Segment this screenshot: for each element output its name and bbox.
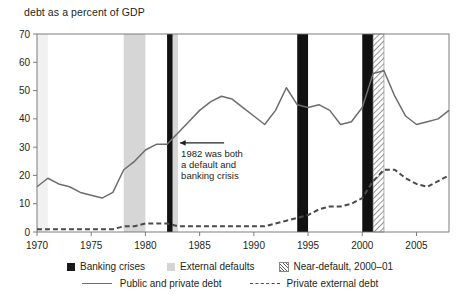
- chart-plot-area: 0102030405060701970197519801985199019952…: [0, 0, 460, 260]
- svg-text:1995: 1995: [297, 240, 320, 251]
- public-private-debt-line-icon: [82, 283, 112, 284]
- svg-text:70: 70: [19, 29, 31, 40]
- svg-text:40: 40: [19, 113, 31, 124]
- legend-label-external-defaults: External defaults: [180, 261, 255, 272]
- svg-text:a default and: a default and: [181, 159, 236, 170]
- svg-text:0: 0: [24, 227, 30, 238]
- svg-text:1985: 1985: [189, 240, 212, 251]
- svg-text:1980: 1980: [134, 240, 157, 251]
- svg-text:1975: 1975: [80, 240, 103, 251]
- legend-row-2: Public and private debt Private external…: [0, 275, 460, 292]
- legend-item-near-default[interactable]: Near-default, 2000–01: [279, 261, 394, 272]
- svg-text:1990: 1990: [243, 240, 266, 251]
- svg-text:banking crisis: banking crisis: [181, 170, 239, 181]
- chart-legend: Banking crises External defaults Near-de…: [0, 258, 460, 292]
- external-defaults-swatch-icon: [167, 263, 175, 271]
- legend-row-1: Banking crises External defaults Near-de…: [0, 258, 460, 275]
- svg-text:2005: 2005: [405, 240, 428, 251]
- legend-label-public-private-debt: Public and private debt: [120, 278, 222, 289]
- legend-item-public-private-debt[interactable]: Public and private debt: [82, 278, 222, 289]
- private-external-debt-line-icon: [250, 283, 280, 284]
- svg-text:1982 was both: 1982 was both: [181, 148, 243, 159]
- legend-item-private-external-debt[interactable]: Private external debt: [250, 278, 379, 289]
- legend-label-near-default: Near-default, 2000–01: [294, 261, 394, 272]
- svg-text:60: 60: [19, 57, 31, 68]
- near-default-swatch-icon: [279, 262, 289, 272]
- chart-container: debt as a percent of GDP 010203040506070…: [0, 0, 460, 298]
- legend-item-external-defaults[interactable]: External defaults: [167, 261, 255, 272]
- banking-crises-swatch-icon: [67, 263, 75, 271]
- svg-text:1970: 1970: [26, 240, 49, 251]
- svg-text:2000: 2000: [351, 240, 374, 251]
- svg-text:20: 20: [19, 170, 31, 181]
- svg-text:10: 10: [19, 198, 31, 209]
- legend-label-private-external-debt: Private external debt: [287, 278, 379, 289]
- svg-text:50: 50: [19, 85, 31, 96]
- legend-label-banking-crises: Banking crises: [80, 261, 145, 272]
- legend-item-banking-crises[interactable]: Banking crises: [67, 261, 145, 272]
- svg-text:30: 30: [19, 142, 31, 153]
